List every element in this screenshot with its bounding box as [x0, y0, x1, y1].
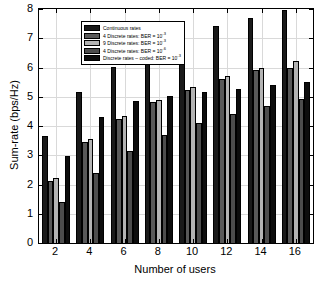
x-axis-tick: [193, 9, 194, 13]
x-axis-tick: [159, 9, 160, 13]
y-axis-tick-label: 1: [27, 207, 33, 219]
x-axis-tick: [90, 239, 91, 243]
legend-label: 9 Discrete rates: BER = 10-3: [103, 40, 166, 46]
y-axis-tick-label: 0: [27, 236, 33, 248]
legend-label: 4 Discrete rates: BER = 10-6: [103, 48, 166, 54]
x-axis-tick-label: 10: [186, 245, 198, 257]
y-axis-tick-label: 6: [27, 61, 33, 73]
x-axis-tick-label: 12: [220, 245, 232, 257]
y-axis-tick: [39, 155, 43, 156]
y-axis-tick: [309, 185, 313, 186]
x-axis-tick-labels: 246810121416: [38, 245, 312, 259]
x-axis-tick: [56, 9, 57, 13]
x-axis-tick: [90, 9, 91, 13]
x-axis-tick: [125, 9, 126, 13]
x-axis-tick-label: 16: [289, 245, 301, 257]
y-axis-tick: [309, 68, 313, 69]
x-axis-tick: [262, 9, 263, 13]
y-axis-tick: [39, 214, 43, 215]
x-axis-tick: [56, 239, 57, 243]
y-axis-tick: [39, 9, 43, 10]
legend-swatch: [84, 33, 100, 39]
y-axis-tick: [39, 126, 43, 127]
x-axis-tick: [193, 239, 194, 243]
x-axis-tick-label: 8: [155, 245, 161, 257]
legend-item: 4 Discrete rates: BER = 10-6: [84, 47, 181, 54]
legend-label: 4 Discrete rates: BER = 10-3: [103, 33, 166, 39]
legend-item: 4 Discrete rates: BER = 10-3: [84, 32, 181, 39]
y-axis-tick: [309, 155, 313, 156]
legend-swatch: [84, 25, 100, 31]
y-axis-tick: [39, 243, 43, 244]
legend-item: Continuous rates: [84, 25, 181, 32]
x-axis-tick: [125, 239, 126, 243]
legend-swatch: [84, 40, 100, 46]
y-axis-tick: [309, 214, 313, 215]
x-axis-tick: [227, 9, 228, 13]
y-axis-tick-label: 4: [27, 119, 33, 131]
x-axis-tick: [227, 239, 228, 243]
x-axis-tick: [262, 239, 263, 243]
y-axis-tick-label: 5: [27, 90, 33, 102]
y-axis-tick: [309, 9, 313, 10]
y-axis-tick: [309, 126, 313, 127]
x-axis-tick: [296, 9, 297, 13]
y-axis-tick: [39, 97, 43, 98]
y-axis-tick: [309, 38, 313, 39]
y-axis-tick: [309, 243, 313, 244]
legend: Continuous rates4 Discrete rates: BER = …: [81, 21, 185, 65]
y-axis-tick-label: 7: [27, 31, 33, 43]
legend-item: Discrete rates – coded: BER = 10-3: [84, 55, 181, 62]
y-axis-tick-label: 3: [27, 148, 33, 160]
y-axis-tick: [39, 185, 43, 186]
y-axis-tick-label: 2: [27, 178, 33, 190]
y-axis-tick-label: 8: [27, 2, 33, 14]
y-axis-tick: [39, 68, 43, 69]
y-axis-tick-labels: 012345678: [0, 8, 33, 242]
x-axis-tick: [159, 239, 160, 243]
x-axis-tick-label: 2: [52, 245, 58, 257]
legend-label: Discrete rates – coded: BER = 10-3: [103, 55, 181, 61]
legend-label: Continuous rates: [103, 25, 141, 31]
y-axis-tick: [309, 97, 313, 98]
legend-item: 9 Discrete rates: BER = 10-3: [84, 40, 181, 47]
x-axis-tick-label: 4: [86, 245, 92, 257]
legend-swatch: [84, 55, 100, 61]
figure-canvas: Sum-rate (bps/Hz) 012345678 Continuous r…: [0, 0, 327, 295]
y-axis-tick: [39, 38, 43, 39]
x-axis-tick-label: 6: [121, 245, 127, 257]
x-axis-label: Number of users: [38, 263, 312, 275]
x-axis-tick-label: 14: [255, 245, 267, 257]
plot-area: Continuous rates4 Discrete rates: BER = …: [38, 8, 314, 244]
x-axis-tick: [296, 239, 297, 243]
legend-swatch: [84, 48, 100, 54]
